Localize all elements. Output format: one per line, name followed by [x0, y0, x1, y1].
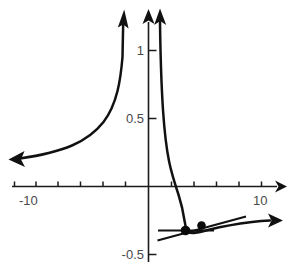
y-tick-label-one: 1	[120, 44, 144, 57]
x-tick-label-neg10: -10	[19, 194, 38, 207]
plot-canvas	[0, 0, 291, 274]
x-tick-label-pos10: 10	[253, 194, 267, 207]
graph-figure: -10 10 1 0.5 -0.5	[0, 0, 291, 274]
y-axis-arrow-icon	[143, 9, 155, 24]
point-marker-b	[197, 221, 206, 230]
y-tick-marks	[149, 51, 157, 255]
y-tick-label-neg-half: -0.5	[100, 248, 144, 261]
curve-left-branch	[20, 22, 123, 159]
point-marker-a	[181, 226, 191, 236]
y-tick-label-half: 0.5	[108, 112, 144, 125]
